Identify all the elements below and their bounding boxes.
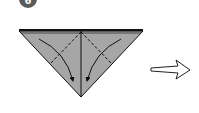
origami-diagram bbox=[0, 0, 199, 113]
paper-triangle bbox=[19, 30, 143, 97]
next-step-arrow-icon bbox=[151, 60, 190, 79]
